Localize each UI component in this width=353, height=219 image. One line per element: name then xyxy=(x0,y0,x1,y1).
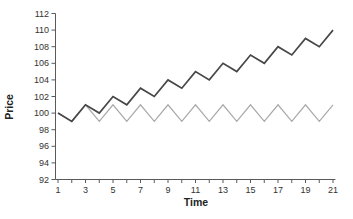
x-tick-label: 21 xyxy=(328,185,338,195)
y-tick-label: 96 xyxy=(39,141,49,151)
x-tick-label: 7 xyxy=(138,185,143,195)
y-tick-label: 100 xyxy=(34,108,49,118)
x-tick-label: 5 xyxy=(110,185,115,195)
x-tick-label: 11 xyxy=(191,185,200,195)
y-tick-label: 112 xyxy=(35,9,49,19)
y-tick-label: 106 xyxy=(34,58,49,68)
y-tick-label: 104 xyxy=(34,75,49,85)
y-tick-label: 98 xyxy=(39,125,49,135)
x-tick-label: 17 xyxy=(273,185,283,195)
series-lines xyxy=(58,30,333,121)
price-time-chart: 92949698100102104106108110112 1357911131… xyxy=(0,0,353,219)
x-axis-title: Time xyxy=(184,196,208,208)
x-tick-label: 9 xyxy=(165,185,170,195)
x-axis: 13579111315171921 xyxy=(55,180,338,195)
y-tick-label: 102 xyxy=(34,92,49,102)
x-tick-label: 1 xyxy=(55,185,60,195)
y-tick-label: 110 xyxy=(35,25,49,35)
y-axis-title: Price xyxy=(3,94,15,120)
y-tick-label: 94 xyxy=(39,158,49,168)
x-tick-label: 19 xyxy=(300,185,310,195)
y-axis: 92949698100102104106108110112 xyxy=(34,9,56,185)
y-tick-label: 92 xyxy=(39,175,49,185)
x-tick-label: 3 xyxy=(83,185,88,195)
chart-svg: 92949698100102104106108110112 1357911131… xyxy=(0,0,353,219)
trending-price-line xyxy=(58,30,333,121)
y-tick-label: 108 xyxy=(34,42,49,52)
x-tick-label: 13 xyxy=(218,185,228,195)
x-tick-label: 15 xyxy=(245,185,255,195)
